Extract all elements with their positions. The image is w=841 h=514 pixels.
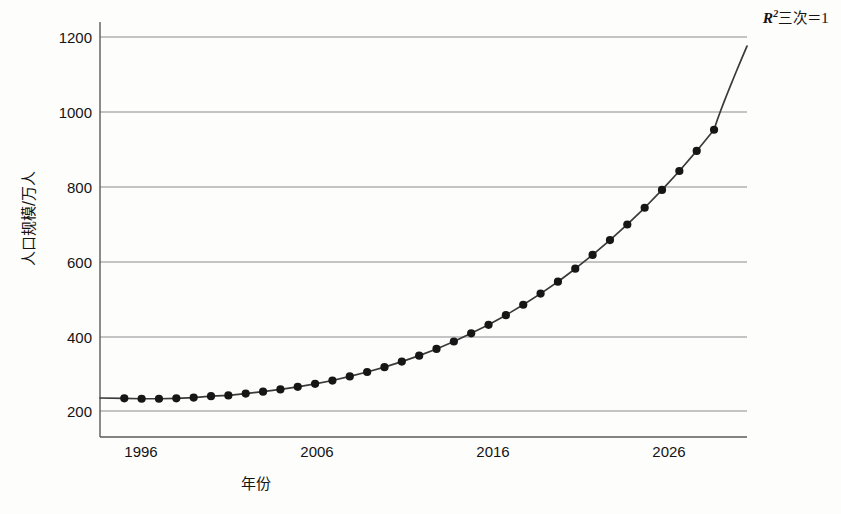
y-tick-1200: 1200 bbox=[34, 29, 92, 46]
data-point bbox=[484, 321, 492, 329]
r-squared-annotation: R2三次＝1 bbox=[763, 6, 829, 27]
data-point bbox=[224, 391, 232, 399]
data-point bbox=[380, 363, 388, 371]
data-point bbox=[276, 385, 284, 393]
data-point bbox=[693, 147, 701, 155]
r-squared-equals: ＝ bbox=[807, 10, 821, 26]
x-tick-2016: 2016 bbox=[458, 443, 528, 460]
data-point bbox=[190, 394, 198, 402]
data-point bbox=[467, 329, 475, 337]
y-tick-1000: 1000 bbox=[34, 104, 92, 121]
x-axis-title: 年份 bbox=[0, 472, 841, 493]
data-point bbox=[172, 394, 180, 402]
data-point bbox=[554, 278, 562, 286]
data-point bbox=[120, 394, 128, 402]
x-tick-2026: 2026 bbox=[634, 443, 704, 460]
chart-figure: 1200 1000 800 600 400 200 1996 2006 2016… bbox=[0, 0, 841, 514]
data-markers bbox=[120, 126, 718, 403]
data-point bbox=[589, 251, 597, 259]
data-point bbox=[571, 265, 579, 273]
data-point bbox=[415, 352, 423, 360]
data-point bbox=[207, 392, 215, 400]
data-line bbox=[100, 46, 747, 399]
grid-lines bbox=[100, 37, 747, 411]
data-point bbox=[536, 289, 544, 297]
data-point bbox=[259, 388, 267, 396]
y-tick-400: 400 bbox=[34, 329, 92, 346]
data-point bbox=[502, 311, 510, 319]
data-point bbox=[606, 236, 614, 244]
data-point bbox=[363, 368, 371, 376]
axis-lines bbox=[100, 22, 747, 437]
data-point bbox=[398, 357, 406, 365]
data-point bbox=[294, 383, 302, 391]
r-squared-symbol: R bbox=[763, 9, 774, 26]
data-point bbox=[432, 345, 440, 353]
data-point bbox=[450, 337, 458, 345]
y-tick-600: 600 bbox=[34, 254, 92, 271]
data-point bbox=[138, 395, 146, 403]
x-tick-1996: 1996 bbox=[106, 443, 176, 460]
data-point bbox=[242, 389, 250, 397]
x-tick-2006: 2006 bbox=[282, 443, 352, 460]
y-tick-800: 800 bbox=[34, 179, 92, 196]
y-tick-200: 200 bbox=[34, 403, 92, 420]
population-growth-line-chart bbox=[0, 0, 841, 514]
data-point bbox=[328, 376, 336, 384]
data-point bbox=[311, 380, 319, 388]
data-point bbox=[641, 204, 649, 212]
data-point bbox=[346, 372, 354, 380]
data-point bbox=[155, 395, 163, 403]
y-axis-title: 人口规模/万人 bbox=[17, 119, 38, 319]
r-squared-fit-label: 三次 bbox=[778, 10, 806, 26]
x-axis-title-text: 年份 bbox=[241, 472, 271, 493]
data-point bbox=[519, 301, 527, 309]
data-point bbox=[675, 167, 683, 175]
data-point bbox=[658, 186, 666, 194]
r-squared-value: 1 bbox=[821, 9, 829, 26]
data-point bbox=[623, 220, 631, 228]
data-point bbox=[710, 126, 718, 134]
